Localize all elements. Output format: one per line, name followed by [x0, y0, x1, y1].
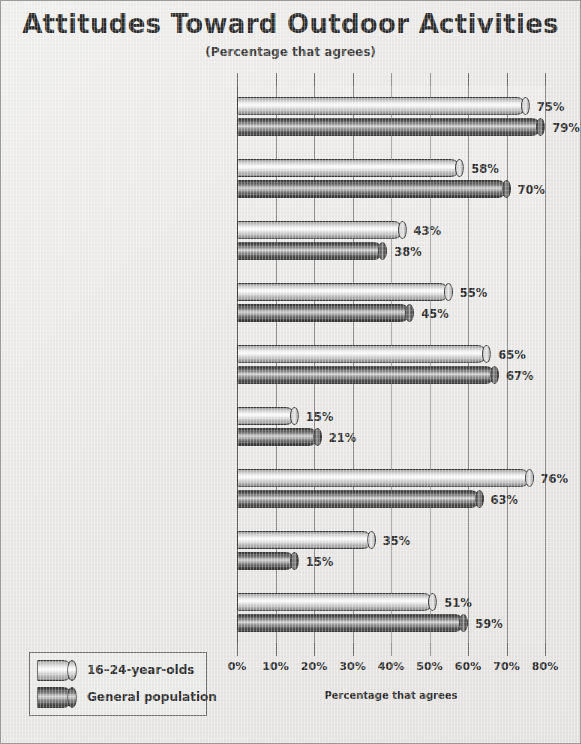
x-tick-label: 0%	[228, 660, 247, 673]
bar-body	[237, 304, 410, 322]
bar-youth	[237, 407, 295, 425]
x-axis-title: Percentage that agrees	[237, 690, 545, 701]
bar-youth	[237, 593, 433, 611]
bar-body	[237, 469, 530, 487]
bar-end-cap	[490, 366, 499, 384]
bar-body	[237, 118, 541, 136]
value-label: 35%	[383, 534, 411, 548]
value-label: 15%	[306, 410, 334, 424]
bar-general	[237, 614, 464, 632]
bar-youth	[237, 531, 372, 549]
bar-body	[237, 345, 487, 363]
bar-youth	[237, 221, 403, 239]
bar-body	[237, 428, 318, 446]
x-tick-label: 20%	[301, 660, 327, 673]
gridline-70	[507, 86, 508, 643]
tick-bottom-0	[237, 643, 238, 656]
bar-body	[237, 221, 403, 239]
x-tick-label: 60%	[455, 660, 481, 673]
bar-end-cap	[313, 428, 322, 446]
tick-bottom-10	[276, 643, 277, 656]
bar-end-cap	[502, 180, 511, 198]
bar-general	[237, 304, 410, 322]
legend-swatch-youth-icon	[37, 660, 73, 681]
tick-top-10	[276, 73, 277, 86]
bar-body	[237, 490, 480, 508]
tick-bottom-60	[468, 643, 469, 656]
x-tick-label: 80%	[532, 660, 558, 673]
legend-item-youth: 16–24-year-olds	[37, 659, 194, 681]
value-label: 38%	[394, 245, 422, 259]
tick-top-70	[507, 73, 508, 86]
bar-youth	[237, 159, 460, 177]
bar-end-cap	[444, 283, 453, 301]
tick-top-20	[314, 73, 315, 86]
legend-label-general: General population	[87, 690, 217, 704]
gridline-60	[468, 86, 469, 643]
legend-swatch-general-icon	[37, 687, 73, 708]
bar-general	[237, 490, 480, 508]
bar-body	[237, 366, 495, 384]
bar-general	[237, 180, 507, 198]
bar-youth	[237, 469, 530, 487]
bar-end-cap	[475, 490, 484, 508]
tick-top-0	[237, 73, 238, 86]
bar-body	[237, 180, 507, 198]
value-label: 59%	[475, 617, 503, 631]
value-label: 21%	[329, 431, 357, 445]
bar-body	[237, 407, 295, 425]
bar-general	[237, 242, 383, 260]
bar-body	[237, 614, 464, 632]
bar-general	[237, 366, 495, 384]
bar-end-cap	[459, 614, 468, 632]
bar-end-cap	[367, 531, 376, 549]
value-label: 15%	[306, 555, 334, 569]
legend-item-general: General population	[37, 686, 217, 708]
value-label: 43%	[414, 224, 442, 238]
tick-bottom-70	[507, 643, 508, 656]
bar-end-cap	[290, 407, 299, 425]
tick-top-30	[353, 73, 354, 86]
bar-youth	[237, 283, 449, 301]
x-tick-label: 40%	[378, 660, 404, 673]
tick-bottom-80	[545, 643, 546, 656]
bar-end-cap	[290, 552, 299, 570]
bar-body	[237, 159, 460, 177]
tick-bottom-50	[430, 643, 431, 656]
tick-top-40	[391, 73, 392, 86]
bar-youth	[237, 345, 487, 363]
x-tick-label: 50%	[416, 660, 442, 673]
bar-end-cap	[525, 469, 534, 487]
bar-body	[237, 97, 526, 115]
tick-top-50	[430, 73, 431, 86]
bar-end-cap	[521, 97, 530, 115]
value-label: 58%	[471, 162, 499, 176]
chart-container: Attitudes Toward Outdoor Activities (Per…	[0, 0, 581, 744]
bar-body	[237, 593, 433, 611]
bar-body	[237, 552, 295, 570]
bar-youth	[237, 97, 526, 115]
value-label: 51%	[444, 596, 472, 610]
x-tick-label: 10%	[262, 660, 288, 673]
chart-title: Attitudes Toward Outdoor Activities	[1, 9, 580, 39]
bar-end-cap	[398, 221, 407, 239]
value-label: 76%	[541, 472, 569, 486]
value-label: 65%	[498, 348, 526, 362]
chart-subtitle: (Percentage that agrees)	[1, 45, 580, 59]
gridline-80	[545, 86, 546, 643]
value-label: 75%	[537, 100, 565, 114]
tick-bottom-40	[391, 643, 392, 656]
tick-top-60	[468, 73, 469, 86]
chart-legend: 16–24-year-olds General population	[29, 652, 207, 716]
value-label: 70%	[518, 183, 546, 197]
bar-general	[237, 552, 295, 570]
x-tick-label: 30%	[339, 660, 365, 673]
legend-label-youth: 16–24-year-olds	[87, 663, 194, 677]
value-label: 63%	[491, 493, 519, 507]
bar-body	[237, 531, 372, 549]
tick-bottom-30	[353, 643, 354, 656]
bar-body	[237, 283, 449, 301]
bar-general	[237, 118, 541, 136]
value-label: 45%	[421, 307, 449, 321]
tick-bottom-20	[314, 643, 315, 656]
